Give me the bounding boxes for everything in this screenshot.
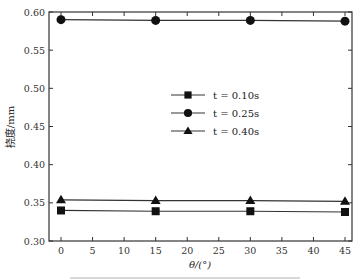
square-marker-icon bbox=[152, 207, 160, 215]
square-marker-icon bbox=[184, 91, 191, 98]
legend: t = 0.10st = 0.25st = 0.40s bbox=[171, 90, 259, 137]
square-marker-icon bbox=[246, 207, 254, 215]
x-axis-label: θ/(°) bbox=[189, 259, 211, 270]
legend-label: t = 0.10s bbox=[213, 90, 259, 101]
triangle-marker-icon bbox=[340, 196, 350, 204]
legend-item: t = 0.25s bbox=[171, 108, 259, 119]
y-tick-label: 0.30 bbox=[24, 236, 45, 247]
series-circle bbox=[57, 15, 350, 26]
triangle-marker-icon bbox=[183, 126, 192, 134]
square-marker-icon bbox=[57, 206, 65, 214]
y-tick-label: 0.60 bbox=[24, 7, 45, 18]
y-tick-label: 0.35 bbox=[24, 197, 45, 208]
line-chart: 0510152025303540450.300.350.400.450.500.… bbox=[0, 0, 358, 280]
series-square bbox=[57, 206, 349, 216]
series-triangle bbox=[56, 195, 350, 205]
legend-label: t = 0.40s bbox=[213, 126, 259, 137]
legend-item: t = 0.40s bbox=[171, 126, 259, 137]
circle-marker-icon bbox=[246, 16, 255, 25]
x-tick-label: 25 bbox=[213, 245, 225, 256]
figure-caption-truncated bbox=[70, 274, 300, 280]
x-tick-label: 10 bbox=[118, 245, 130, 256]
x-tick-label: 15 bbox=[150, 245, 162, 256]
circle-marker-icon bbox=[151, 16, 160, 25]
x-tick-label: 30 bbox=[244, 245, 256, 256]
x-tick-label: 40 bbox=[307, 245, 319, 256]
triangle-marker-icon bbox=[245, 196, 255, 204]
legend-item: t = 0.10s bbox=[171, 90, 259, 101]
series-layer bbox=[56, 15, 350, 216]
x-tick-label: 45 bbox=[339, 245, 351, 256]
series-line bbox=[61, 200, 345, 202]
series-line bbox=[61, 210, 345, 212]
x-tick-label: 35 bbox=[276, 245, 288, 256]
y-tick-label: 0.40 bbox=[24, 159, 45, 170]
legend-label: t = 0.25s bbox=[213, 108, 259, 119]
series-line bbox=[61, 20, 345, 22]
y-tick-label: 0.55 bbox=[24, 45, 45, 56]
plot-frame bbox=[49, 12, 352, 241]
triangle-marker-icon bbox=[151, 196, 161, 204]
triangle-marker-icon bbox=[56, 195, 66, 203]
circle-marker-icon bbox=[341, 17, 350, 26]
x-tick-label: 20 bbox=[181, 245, 193, 256]
y-tick-label: 0.50 bbox=[24, 83, 45, 94]
circle-marker-icon bbox=[57, 15, 66, 24]
y-axis-label: 挠度/mm bbox=[4, 105, 16, 148]
x-tick-label: 0 bbox=[58, 245, 64, 256]
x-tick-label: 5 bbox=[90, 245, 96, 256]
circle-marker-icon bbox=[184, 109, 192, 117]
y-tick-label: 0.45 bbox=[24, 121, 45, 132]
square-marker-icon bbox=[341, 208, 349, 216]
